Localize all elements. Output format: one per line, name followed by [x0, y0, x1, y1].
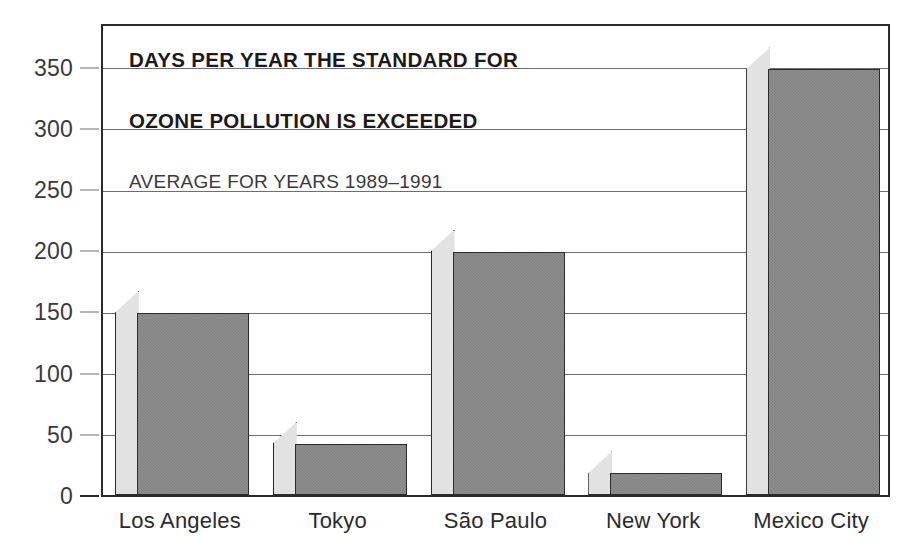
bar-side-face — [273, 422, 297, 495]
bar-new-york — [588, 451, 722, 495]
bar-side-face — [115, 291, 139, 495]
bar-front-face — [768, 69, 880, 495]
chart-title-line-1: DAYS PER YEAR THE STANDARD FOR — [129, 48, 518, 72]
bar-mexico-city — [746, 47, 880, 495]
plot-area: DAYS PER YEAR THE STANDARD FOR OZONE POL… — [101, 24, 890, 497]
chart-title-line-2: OZONE POLLUTION IS EXCEEDED — [129, 109, 478, 133]
y-tick-mark-50 — [80, 434, 99, 435]
y-tick-label-250: 250 — [11, 177, 73, 204]
y-tick-label-50: 50 — [11, 421, 73, 448]
ozone-pollution-bar-chart: 050100150200250300350 DAYS PER YEAR THE … — [0, 0, 915, 554]
y-tick-label-200: 200 — [11, 238, 73, 265]
bar-los-angeles — [115, 291, 249, 495]
y-tick-mark-200 — [80, 251, 99, 252]
bar-front-face — [453, 252, 565, 495]
x-label-são-paulo: São Paulo — [417, 508, 575, 534]
x-label-los-angeles: Los Angeles — [101, 508, 259, 534]
y-tick-mark-100 — [80, 373, 99, 374]
x-label-mexico-city: Mexico City — [732, 508, 890, 534]
y-tick-label-0: 0 — [11, 483, 73, 510]
x-label-tokyo: Tokyo — [259, 508, 417, 534]
y-tick-label-300: 300 — [11, 115, 73, 142]
chart-subtitle: AVERAGE FOR YEARS 1989–1991 — [129, 171, 443, 193]
y-tick-label-350: 350 — [11, 54, 73, 81]
y-tick-mark-150 — [80, 312, 99, 313]
bar-front-face — [295, 444, 407, 495]
bar-side-face — [588, 451, 612, 495]
y-tick-label-100: 100 — [11, 360, 73, 387]
y-tick-mark-300 — [80, 128, 99, 129]
bar-side-face — [431, 230, 455, 495]
y-tick-mark-0 — [80, 495, 99, 497]
bar-front-face — [610, 473, 722, 495]
y-tick-mark-250 — [80, 190, 99, 191]
bar-front-face — [137, 313, 249, 495]
x-label-new-york: New York — [574, 508, 732, 534]
bar-são-paulo — [431, 230, 565, 495]
y-tick-label-150: 150 — [11, 299, 73, 326]
y-tick-mark-350 — [80, 67, 99, 68]
bar-side-face — [746, 47, 770, 495]
bar-tokyo — [273, 422, 407, 495]
